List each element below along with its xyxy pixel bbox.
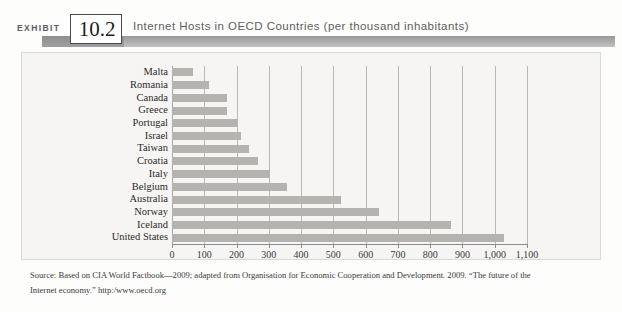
category-label: United States <box>112 231 168 242</box>
header-band <box>42 36 615 47</box>
gridline <box>301 66 302 244</box>
x-axis-tick-label: 400 <box>294 249 309 260</box>
category-label: Malta <box>144 66 169 77</box>
x-axis-tick <box>333 244 334 248</box>
bar <box>172 196 341 204</box>
exhibit-figure: EXHIBIT 10.2 Internet Hosts in OECD Coun… <box>0 0 622 312</box>
x-axis-tick-label: 0 <box>170 249 175 260</box>
bar <box>172 170 270 178</box>
x-axis-tick <box>430 244 431 248</box>
gridline <box>495 66 496 244</box>
category-label: Israel <box>145 130 168 141</box>
x-axis-tick <box>527 244 528 248</box>
x-axis-tick-label: 900 <box>455 249 470 260</box>
x-axis-tick-label: 200 <box>229 249 244 260</box>
gridline <box>462 66 463 244</box>
gridline <box>430 66 431 244</box>
gridline <box>527 66 528 244</box>
bar <box>172 221 451 229</box>
gridline <box>366 66 367 244</box>
x-axis-tick-label: 700 <box>390 249 405 260</box>
category-label: Greece <box>138 104 168 115</box>
bar <box>172 119 237 127</box>
gridline <box>398 66 399 244</box>
bar <box>172 183 287 191</box>
x-axis-tick-label: 100 <box>197 249 212 260</box>
category-label: Iceland <box>137 219 168 230</box>
category-label: Portugal <box>132 117 168 128</box>
x-axis-tick-label: 500 <box>326 249 341 260</box>
gridline <box>333 66 334 244</box>
gridline <box>204 66 205 244</box>
exhibit-number-box: 10.2 <box>70 14 122 44</box>
x-axis-tick-label: 300 <box>261 249 276 260</box>
x-axis-tick <box>269 244 270 248</box>
bar <box>172 157 258 165</box>
x-axis-tick <box>204 244 205 248</box>
category-label: Norway <box>134 206 168 217</box>
bar <box>172 208 379 216</box>
x-axis-tick-label: 1,100 <box>516 249 539 260</box>
plot-background <box>172 66 527 244</box>
x-axis-tick <box>495 244 496 248</box>
bar <box>172 107 227 115</box>
x-axis-tick-label: 800 <box>423 249 438 260</box>
category-axis-labels: MaltaRomaniaCanadaGreecePortugalIsraelTa… <box>40 66 168 244</box>
x-axis-tick <box>462 244 463 248</box>
bar <box>172 132 241 140</box>
gridline <box>172 66 173 244</box>
category-label: Canada <box>137 92 169 103</box>
category-label: Croatia <box>137 155 168 166</box>
x-axis-tick <box>172 244 173 248</box>
category-label: Belgium <box>132 181 168 192</box>
category-label: Taiwan <box>137 142 168 153</box>
x-axis-tick-label: 1,000 <box>483 249 506 260</box>
exhibit-number: 10.2 <box>71 15 123 45</box>
x-axis-tick-label: 600 <box>358 249 373 260</box>
exhibit-label: EXHIBIT <box>17 23 60 33</box>
bar <box>172 68 193 76</box>
plot-area <box>172 66 527 244</box>
x-axis-tick <box>237 244 238 248</box>
x-axis-tick <box>366 244 367 248</box>
x-axis-tick <box>398 244 399 248</box>
exhibit-header: EXHIBIT 10.2 Internet Hosts in OECD Coun… <box>0 14 622 48</box>
bar <box>172 81 209 89</box>
source-line-2: Internet economy.” http:/www.oecd.org <box>30 283 600 298</box>
source-note: Source: Based on CIA World Factbook—2009… <box>30 268 600 298</box>
category-label: Romania <box>130 79 168 90</box>
bar <box>172 94 227 102</box>
page-title: Internet Hosts in OECD Countries (per th… <box>133 20 469 32</box>
category-label: Australia <box>130 193 169 204</box>
x-axis-line <box>172 244 528 245</box>
gridline <box>237 66 238 244</box>
bar <box>172 145 249 153</box>
source-line-1: Source: Based on CIA World Factbook—2009… <box>30 268 600 283</box>
x-axis-tick <box>301 244 302 248</box>
category-label: Italy <box>149 168 168 179</box>
bar <box>172 234 504 242</box>
gridline <box>269 66 270 244</box>
